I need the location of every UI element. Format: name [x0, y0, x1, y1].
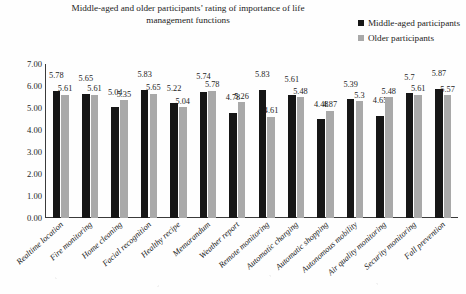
chart-title: Middle-aged and older participants’ rati… — [38, 3, 338, 26]
bar-value-label: 5.48 — [293, 88, 308, 97]
bar-group: 5.225.04 — [164, 64, 193, 218]
scan-noise-decoration — [0, 268, 466, 294]
bar-group: 5.745.78 — [193, 64, 222, 218]
bars-layer: 5.785.615.655.615.045.355.835.655.225.04… — [46, 64, 458, 218]
bar — [288, 95, 296, 218]
y-axis-tick: 0.00 — [27, 214, 42, 223]
bar-group: 5.834.61 — [252, 64, 281, 218]
y-axis-tick: 4.00 — [27, 126, 42, 135]
bar — [61, 95, 69, 218]
bar-value-label: 5.87 — [432, 70, 447, 79]
x-axis-label: Automatic shopping — [274, 220, 330, 272]
bar-value-label: 5.78 — [205, 81, 220, 90]
bar-group: 5.615.48 — [281, 64, 310, 218]
bar — [414, 95, 422, 218]
bar-group: 4.484.87 — [311, 64, 340, 218]
bar — [326, 111, 334, 218]
bar-value-label: 4.61 — [264, 107, 279, 116]
chart-title-line-1: Middle-aged and older participants’ rati… — [38, 3, 338, 15]
bar-value-label: 5.61 — [285, 76, 300, 85]
bar — [82, 94, 90, 218]
x-axis-label: Automatic charging — [245, 220, 300, 271]
bar — [120, 100, 128, 218]
bar-group: 5.045.35 — [105, 64, 134, 218]
bar — [179, 107, 187, 218]
bar — [297, 97, 305, 218]
bar-group: 5.875.57 — [429, 64, 458, 218]
chart-legend: Middle-aged participants Older participa… — [358, 18, 460, 43]
bar — [53, 91, 61, 218]
bar — [111, 107, 119, 218]
bar — [385, 97, 393, 218]
x-axis-label: Security monitoring — [362, 220, 418, 271]
y-axis-tick: 5.00 — [27, 104, 42, 113]
bar-value-label: 5.7 — [404, 74, 414, 83]
bar-group: 5.75.61 — [399, 64, 428, 218]
bar — [141, 90, 149, 218]
bar — [229, 113, 237, 218]
bar-group: 4.655.48 — [370, 64, 399, 218]
bar — [238, 102, 246, 218]
bar-value-label: 5.61 — [87, 85, 102, 94]
bar-group: 5.785.61 — [46, 64, 75, 218]
bar-value-label: 5.78 — [49, 72, 64, 81]
legend-label-middle-aged: Middle-aged participants — [368, 18, 460, 28]
bar-value-label: 5.48 — [382, 88, 397, 97]
y-axis-tick: 6.00 — [27, 82, 42, 91]
bar-value-label: 5.04 — [176, 98, 191, 107]
bar-value-label: 5.83 — [255, 71, 270, 80]
bar — [444, 95, 452, 218]
bar-value-label: 4.87 — [323, 101, 338, 110]
bar — [170, 103, 178, 218]
bar — [150, 94, 158, 218]
bar — [435, 89, 443, 218]
bar-value-label: 5.22 — [167, 85, 182, 94]
bar — [356, 101, 364, 218]
bar — [200, 92, 208, 218]
bar-group: 5.395.3 — [340, 64, 369, 218]
bar-value-label: 5.26 — [234, 93, 249, 102]
bar — [267, 117, 275, 218]
bar-group: 4.785.26 — [223, 64, 252, 218]
bar-value-label: 5.65 — [79, 75, 94, 84]
bar-value-label: 5.39 — [343, 81, 358, 90]
bar — [347, 99, 355, 218]
legend-item-middle-aged: Middle-aged participants — [358, 18, 460, 28]
bar — [406, 93, 414, 218]
legend-label-older: Older participants — [368, 33, 434, 43]
bar-value-label: 5.35 — [117, 91, 132, 100]
bar — [317, 119, 325, 218]
y-axis: 7.006.005.004.003.002.001.000.00 — [8, 59, 42, 223]
y-axis-tick: 2.00 — [27, 170, 42, 179]
bar-chart-figure: Middle-aged and older participants’ rati… — [0, 0, 466, 294]
legend-square-marker-middle-aged — [358, 20, 364, 26]
bar — [376, 116, 384, 218]
bar-value-label: 5.57 — [440, 86, 455, 95]
bar-group: 5.655.61 — [75, 64, 104, 218]
bar — [91, 95, 99, 218]
bar-value-label: 5.61 — [411, 85, 426, 94]
bar-group: 5.835.65 — [134, 64, 163, 218]
bar — [208, 91, 216, 218]
legend-item-older: Older participants — [358, 33, 460, 43]
y-axis-tick: 7.00 — [27, 60, 42, 69]
bar-value-label: 5.61 — [58, 85, 73, 94]
chart-title-line-2: management functions — [38, 15, 338, 27]
bar-value-label: 5.83 — [137, 71, 152, 80]
y-axis-tick: 3.00 — [27, 148, 42, 157]
bar-value-label: 5.65 — [146, 84, 161, 93]
bar-value-label: 5.3 — [354, 92, 364, 101]
y-axis-tick: 1.00 — [27, 192, 42, 201]
legend-square-marker-older — [358, 35, 364, 41]
